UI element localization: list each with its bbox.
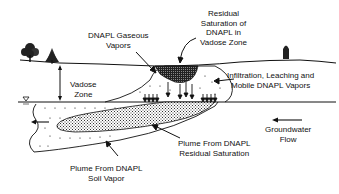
label-residual-saturation: Residual Saturation of DNAPL in Vadose Z… [200, 9, 247, 47]
label-infiltration: Infiltration, Leaching and Mobile DNAPL … [227, 71, 314, 90]
residual-dnapl-zone [155, 66, 198, 83]
label-plume-soil-vapor: Plume From DNAPL Soil Vapor [70, 164, 142, 183]
distant-tree-icon [283, 46, 289, 60]
label-plume-residual-saturation: Plume From DNAPL Residual Saturation [178, 139, 250, 158]
leaching-arrows [143, 82, 217, 102]
groundwater-flow-arrow [272, 118, 302, 123]
diagram-canvas [0, 0, 339, 194]
dnapl-diagram: DNAPL Gaseous Vapors Residual Saturation… [0, 0, 339, 194]
conifer-tree-icon [45, 48, 59, 64]
deciduous-tree-icon [21, 43, 39, 62]
outflow-arrow [31, 120, 49, 125]
vadose-zone-arrow [58, 65, 62, 101]
water-table-icon [23, 97, 29, 104]
label-dnapl-gaseous-vapors: DNAPL Gaseous Vapors [88, 31, 149, 50]
label-vadose-zone: Vadose Zone [70, 80, 97, 99]
label-groundwater-flow: Groundwater Flow [265, 125, 311, 144]
ground-surface [20, 60, 336, 66]
residual-saturation-plume [57, 102, 215, 132]
